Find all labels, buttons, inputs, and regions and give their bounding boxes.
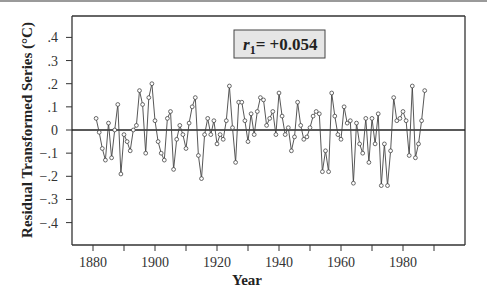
series-markers — [94, 82, 426, 188]
data-point — [200, 177, 204, 181]
data-point — [224, 119, 228, 123]
data-point — [221, 137, 225, 141]
x-tick-label: 1920 — [203, 255, 231, 270]
data-point — [110, 156, 114, 160]
data-point — [209, 133, 213, 137]
data-point — [231, 126, 235, 130]
data-point — [305, 135, 309, 139]
data-point — [97, 130, 101, 134]
data-point — [104, 158, 108, 162]
data-point — [172, 168, 176, 172]
data-point — [299, 124, 303, 128]
data-point — [153, 119, 157, 123]
data-point — [265, 124, 269, 128]
data-point — [255, 110, 259, 114]
data-point — [296, 100, 300, 104]
data-point — [277, 91, 281, 95]
data-point — [321, 170, 325, 174]
data-point — [184, 147, 188, 151]
data-point — [243, 119, 247, 123]
data-point — [376, 112, 380, 116]
data-point — [414, 156, 418, 160]
data-point — [240, 100, 244, 104]
data-point — [324, 149, 328, 153]
data-point — [187, 121, 191, 125]
data-point — [218, 133, 222, 137]
data-point — [274, 133, 278, 137]
data-point — [361, 151, 365, 155]
data-point — [119, 172, 123, 176]
data-point — [94, 117, 98, 121]
data-point — [113, 128, 117, 132]
data-point — [175, 137, 179, 141]
data-point — [156, 140, 160, 144]
x-tick-label: 1940 — [265, 255, 293, 270]
data-point — [100, 147, 104, 151]
data-point — [262, 98, 266, 102]
y-tick-label: −.4 — [40, 216, 58, 231]
data-point — [138, 89, 142, 93]
y-axis-title: Residual Transformed Series (°C) — [19, 22, 36, 238]
data-point — [379, 184, 383, 188]
data-point — [128, 149, 132, 153]
data-point — [135, 124, 139, 128]
data-point — [370, 117, 374, 121]
data-point — [355, 121, 359, 125]
data-point — [330, 91, 334, 95]
y-axis: .4.3.2.10−.1−.2−.3−.4 — [40, 30, 72, 230]
data-point — [141, 103, 145, 107]
x-tick-label: 1960 — [327, 255, 355, 270]
data-point — [352, 181, 356, 185]
data-point — [252, 133, 256, 137]
y-tick-label: −.2 — [40, 169, 58, 184]
data-point — [159, 151, 163, 155]
y-tick-label: 0 — [51, 123, 58, 138]
data-point — [268, 117, 272, 121]
data-point — [271, 110, 275, 114]
data-point — [178, 124, 182, 128]
data-point — [420, 119, 424, 123]
data-point — [197, 154, 201, 158]
data-point — [401, 110, 405, 114]
data-point — [293, 135, 297, 139]
data-point — [147, 96, 151, 100]
data-point — [417, 142, 421, 146]
x-tick-label: 1980 — [389, 255, 417, 270]
data-point — [308, 126, 312, 130]
x-axis: 188019001920194019601980 — [79, 245, 434, 270]
data-point — [122, 133, 126, 137]
x-tick-label: 1880 — [79, 255, 107, 270]
data-point — [116, 103, 120, 107]
data-point — [342, 105, 346, 109]
data-point — [286, 126, 290, 130]
correlation-annotation: r1= +0.054 — [234, 30, 325, 58]
data-point — [398, 117, 402, 121]
data-point — [339, 137, 343, 141]
data-point — [228, 84, 232, 88]
data-point — [206, 117, 210, 121]
x-axis-title: Year — [232, 272, 262, 288]
data-point — [392, 96, 396, 100]
data-point — [193, 96, 197, 100]
data-point — [249, 112, 253, 116]
data-point — [290, 149, 294, 153]
residual-series-chart: .4.3.2.10−.1−.2−.3−.4 188019001920194019… — [0, 0, 487, 299]
data-point — [389, 149, 393, 153]
data-point — [280, 114, 284, 118]
data-point — [212, 119, 216, 123]
data-point — [107, 121, 111, 125]
data-point — [246, 140, 250, 144]
data-point — [407, 154, 411, 158]
data-point — [234, 161, 238, 165]
data-point — [144, 151, 148, 155]
data-point — [358, 142, 362, 146]
y-tick-label: .2 — [48, 77, 59, 92]
data-point — [327, 170, 331, 174]
data-point — [364, 117, 368, 121]
y-tick-label: .4 — [48, 30, 59, 45]
x-tick-label: 1900 — [141, 255, 169, 270]
data-point — [181, 133, 185, 137]
data-point — [373, 142, 377, 146]
data-point — [367, 161, 371, 165]
data-point — [404, 119, 408, 123]
